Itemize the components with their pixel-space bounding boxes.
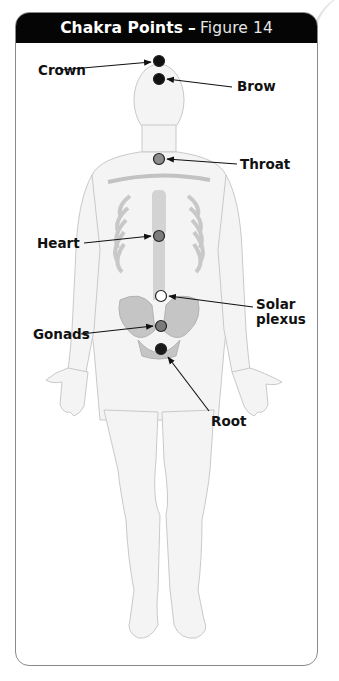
root-dot — [156, 344, 167, 355]
gonads-dot — [156, 321, 167, 332]
label-gonads: Gonads — [33, 327, 90, 342]
throat-dot — [154, 154, 165, 165]
heart-dot — [154, 231, 165, 242]
label-brow: Brow — [237, 79, 276, 94]
label-crown: Crown — [38, 63, 86, 78]
label-heart: Heart — [37, 236, 80, 251]
label-solar-plexus-line1: Solar — [256, 297, 295, 312]
solar-plexus-dot — [156, 291, 167, 302]
label-solar-plexus-line2: plexus — [256, 312, 306, 327]
label-root: Root — [211, 414, 246, 429]
brow-dot — [154, 74, 165, 85]
crown-dot — [154, 56, 165, 67]
label-throat: Throat — [240, 157, 290, 172]
